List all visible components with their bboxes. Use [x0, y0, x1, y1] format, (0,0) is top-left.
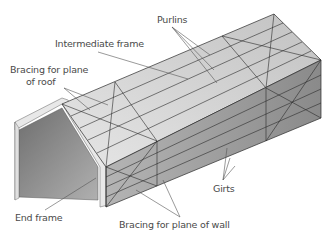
label-bracing-roof-line2: of roof [26, 76, 55, 87]
label-bracing-roof-line1: Bracing for plane [10, 64, 88, 75]
label-bracing-wall: Bracing for plane of wall [119, 219, 230, 230]
label-girts: Girts [213, 183, 235, 194]
structural-diagram: Purlins Intermediate frame Bracing for p… [0, 0, 331, 237]
label-end-frame: End frame [15, 212, 62, 223]
label-intermediate-frame: Intermediate frame [55, 38, 144, 49]
label-purlins: Purlins [157, 14, 187, 25]
building-frame-illustration [0, 0, 331, 237]
